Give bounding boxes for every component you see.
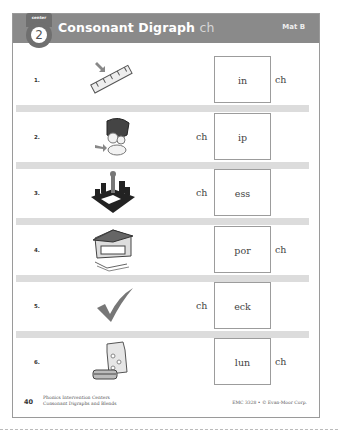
row-number: 3. [34, 190, 40, 196]
chip-bag-icon [83, 113, 139, 159]
ch-label: ch [275, 74, 286, 85]
ch-label: ch [275, 356, 286, 367]
footer-book-info: Phonics Intervention Centers Consonant D… [43, 395, 116, 407]
book-subtitle: Consonant Digraphs and Blends [43, 401, 116, 407]
row-number: 4. [34, 247, 40, 253]
answer-box[interactable]: eck [214, 282, 271, 329]
row-separator [16, 218, 309, 225]
ch-label: ch [196, 187, 207, 198]
exercise-row: 5. ch eck [13, 282, 319, 330]
answer-box[interactable]: por [214, 226, 271, 273]
porch-house-icon [83, 226, 139, 272]
row-number: 2. [34, 134, 40, 140]
mat-label: Mat B [282, 23, 305, 31]
copyright: EMC 3328 • © Evan-Moor Corp. [232, 400, 307, 405]
center-label: center [26, 15, 52, 20]
exercise-row: 4. por ch [13, 226, 319, 274]
exercise-row: 3. ch ess [13, 169, 319, 217]
row-number: 6. [34, 359, 40, 365]
worksheet-page: center 2 Consonant Digraph ch Mat B 1. i… [12, 13, 320, 418]
row-separator [16, 105, 309, 112]
ch-label: ch [196, 131, 207, 142]
digraph-label: ch [199, 20, 214, 35]
chin-ruler-icon [83, 56, 139, 102]
lunch-bag-icon [83, 338, 139, 384]
answer-box[interactable]: ip [214, 113, 271, 160]
ch-label: ch [196, 300, 207, 311]
row-separator [16, 162, 309, 169]
row-separator [16, 331, 309, 338]
ch-label: ch [275, 244, 286, 255]
header-bar: center 2 Consonant Digraph ch Mat B [13, 14, 319, 43]
exercise-row: 2. ch ip [13, 113, 319, 161]
chess-icon [83, 169, 139, 215]
page-number: 40 [24, 398, 33, 406]
row-number: 5. [34, 303, 40, 309]
row-number: 1. [34, 77, 40, 83]
center-number: 2 [31, 27, 47, 43]
answer-box[interactable]: in [214, 56, 271, 103]
answer-box[interactable]: ess [214, 169, 271, 216]
answer-box[interactable]: lun [214, 338, 271, 385]
exercise-row: 1. in ch [13, 56, 319, 104]
cut-line [0, 429, 338, 430]
center-badge: center 2 [26, 13, 52, 49]
check-mark-icon [83, 282, 139, 328]
row-separator [16, 275, 309, 282]
page-title: Consonant Digraph ch [58, 20, 214, 35]
exercise-row: 6. lun ch [13, 338, 319, 386]
